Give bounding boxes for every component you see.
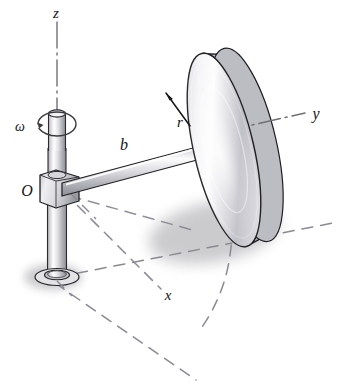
diagram-canvas: z y x O ω b r [0, 0, 340, 389]
hub-leader-line [70, 193, 96, 219]
horizontal-arm [62, 143, 216, 196]
disk-radius-label: r [177, 114, 183, 130]
ground-line-lower-left [55, 283, 196, 380]
z-axis-label: z [52, 5, 59, 21]
mechanics-figure: z y x O ω b r [0, 0, 340, 389]
y-axis-label: y [310, 105, 320, 123]
shaft-base-collar [35, 269, 79, 286]
arm-length-label: b [120, 136, 128, 153]
origin-label: O [21, 182, 33, 199]
x-axis-label: x [164, 287, 172, 303]
angular-velocity-label: ω [15, 119, 25, 134]
